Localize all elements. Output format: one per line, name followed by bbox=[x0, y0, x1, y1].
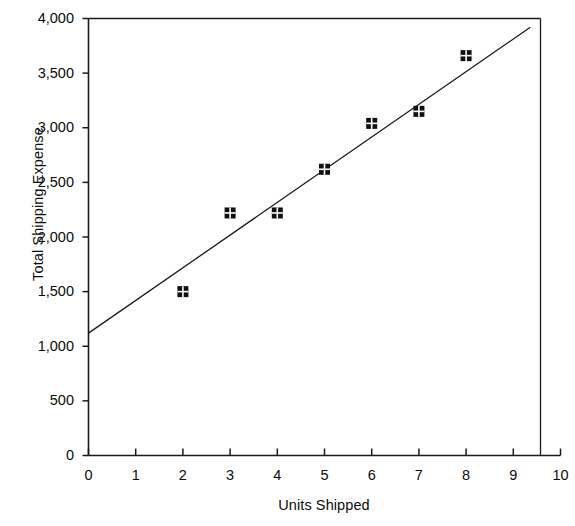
plot-frame bbox=[89, 19, 561, 456]
scatter-chart: Total Shipping Expense Units Shipped 050… bbox=[0, 0, 575, 526]
data-point bbox=[413, 106, 424, 117]
data-point-markers bbox=[177, 50, 471, 297]
data-point bbox=[177, 286, 188, 297]
x-axis-ticks bbox=[89, 449, 561, 456]
data-point bbox=[366, 118, 377, 129]
trend-line bbox=[89, 27, 531, 333]
data-point bbox=[272, 207, 283, 218]
y-axis-ticks bbox=[83, 19, 89, 456]
data-point bbox=[225, 207, 236, 218]
plot-area bbox=[0, 0, 575, 526]
data-point bbox=[461, 50, 472, 61]
data-point bbox=[319, 164, 330, 175]
